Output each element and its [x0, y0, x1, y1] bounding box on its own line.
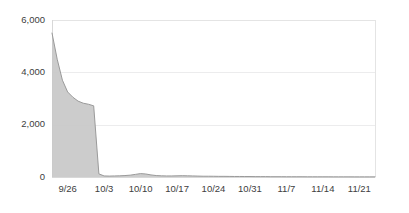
- x-axis-tick-labels: 9/2610/310/1010/1710/2410/3111/711/1411/…: [58, 183, 371, 194]
- chart-svg: 02,0004,0006,000 9/2610/310/1010/1710/24…: [0, 0, 409, 213]
- x-tick-label-10-31: 10/31: [238, 183, 262, 194]
- x-tick-label-10-10: 10/10: [129, 183, 153, 194]
- x-tick-label-10-3: 10/3: [95, 183, 114, 194]
- y-tick-label-4000: 4,000: [21, 66, 45, 77]
- x-tick-label-11-14: 11/14: [311, 183, 334, 194]
- y-tick-label-6000: 6,000: [21, 14, 45, 25]
- x-tick-label-11-7: 11/7: [278, 183, 296, 194]
- x-tick-label-9-26: 9/26: [58, 183, 77, 194]
- y-tick-label-0: 0: [40, 171, 45, 182]
- y-tick-label-2000: 2,000: [21, 118, 45, 129]
- chart-container: 02,0004,0006,000 9/2610/310/1010/1710/24…: [0, 0, 409, 213]
- x-tick-label-11-21: 11/21: [348, 183, 371, 194]
- x-tick-label-10-17: 10/17: [165, 183, 189, 194]
- x-tick-label-10-24: 10/24: [202, 183, 226, 194]
